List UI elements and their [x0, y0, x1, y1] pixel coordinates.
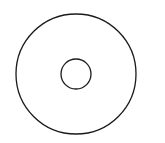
- inner-circle: [61, 59, 91, 89]
- concentric-circles-diagram: [0, 0, 165, 143]
- outer-circle: [16, 14, 136, 134]
- diagram-canvas: [0, 0, 165, 143]
